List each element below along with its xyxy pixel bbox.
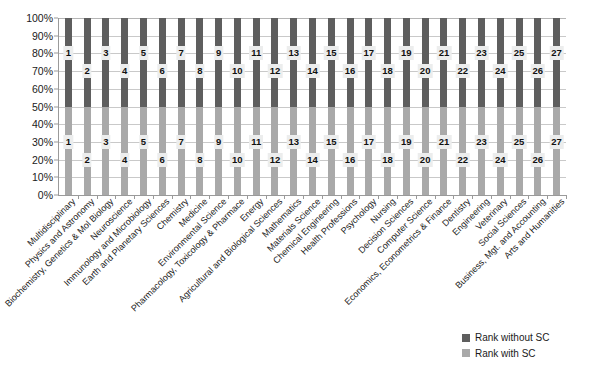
y-axis-tick-label: 30% [32, 137, 53, 148]
bar-segment-rank-with-sc [253, 107, 260, 196]
bar-segment-rank-without-sc [459, 18, 466, 107]
data-label-rank-without-sc: 5 [139, 46, 148, 60]
data-label-rank-without-sc: 25 [512, 46, 527, 60]
data-label-rank-with-sc: 16 [343, 153, 358, 167]
data-label-rank-without-sc: 24 [493, 64, 508, 78]
bar-segment-rank-without-sc [196, 18, 203, 107]
bar-segment-rank-with-sc [384, 107, 391, 196]
data-label-rank-without-sc: 20 [418, 64, 433, 78]
data-label-rank-with-sc: 23 [474, 135, 489, 149]
data-label-rank-with-sc: 2 [83, 153, 92, 167]
data-label-rank-without-sc: 11 [249, 46, 263, 60]
bar-segment-rank-without-sc [159, 18, 166, 107]
data-label-rank-with-sc: 4 [120, 153, 129, 167]
bar-segment-rank-with-sc [534, 107, 541, 196]
bar-column [121, 18, 128, 195]
data-label-rank-with-sc: 19 [399, 135, 414, 149]
data-label-rank-without-sc: 23 [474, 46, 489, 60]
bar-column [347, 18, 354, 195]
y-axis-tick-label: 100% [26, 13, 53, 24]
bar-series-group [59, 18, 566, 195]
bar-column [384, 18, 391, 195]
bar-segment-rank-without-sc [271, 18, 278, 107]
bar-segment-rank-without-sc [121, 18, 128, 107]
bar-column [309, 18, 316, 195]
y-axis-tick-mark [54, 53, 58, 54]
bar-column [215, 18, 222, 195]
data-label-rank-with-sc: 15 [324, 135, 339, 149]
data-label-rank-with-sc: 27 [549, 135, 564, 149]
bar-column [440, 18, 447, 195]
y-axis-tick-mark [54, 71, 58, 72]
y-axis-tick-mark [54, 18, 58, 19]
data-label-rank-with-sc: 22 [455, 153, 470, 167]
bar-segment-rank-without-sc [309, 18, 316, 107]
bar-column [365, 18, 372, 195]
bar-column [459, 18, 466, 195]
data-label-rank-with-sc: 20 [418, 153, 433, 167]
legend-item-rank-with-sc: Rank with SC [462, 347, 549, 361]
y-axis-tick-mark [54, 177, 58, 178]
legend-swatch-icon [462, 349, 470, 357]
y-axis-tick-mark [54, 159, 58, 160]
data-label-rank-with-sc: 25 [512, 135, 527, 149]
data-label-rank-with-sc: 10 [230, 153, 245, 167]
bar-segment-rank-with-sc [196, 107, 203, 196]
data-label-rank-with-sc: 6 [158, 153, 167, 167]
data-label-rank-without-sc: 22 [455, 64, 470, 78]
bar-column [478, 18, 485, 195]
data-label-rank-without-sc: 13 [286, 46, 301, 60]
bar-segment-rank-with-sc [422, 107, 429, 196]
bar-segment-rank-without-sc [384, 18, 391, 107]
bar-column [159, 18, 166, 195]
y-axis-tick-label: 20% [32, 154, 53, 165]
bar-segment-rank-with-sc [271, 107, 278, 196]
bar-segment-rank-without-sc [422, 18, 429, 107]
plot-area: 1122334455667788991010111112121313141415… [58, 18, 566, 196]
legend-swatch-icon [462, 334, 470, 342]
data-label-rank-with-sc: 5 [139, 135, 148, 149]
bar-segment-rank-without-sc [478, 18, 485, 107]
bar-segment-rank-without-sc [253, 18, 260, 107]
data-label-rank-without-sc: 3 [101, 46, 110, 60]
bar-column [196, 18, 203, 195]
bar-column [140, 18, 147, 195]
y-axis-tick-mark [54, 124, 58, 125]
data-label-rank-without-sc: 21 [437, 46, 452, 60]
bar-column [102, 18, 109, 195]
legend-item-rank-without-sc: Rank without SC [462, 331, 549, 345]
bar-segment-rank-with-sc [328, 107, 335, 196]
y-axis-tick-label: 50% [32, 101, 53, 112]
data-label-rank-without-sc: 18 [380, 64, 395, 78]
bar-segment-rank-without-sc [516, 18, 523, 107]
bar-segment-rank-with-sc [347, 107, 354, 196]
bar-column [253, 18, 260, 195]
bar-column [534, 18, 541, 195]
y-axis-tick-mark [54, 88, 58, 89]
data-label-rank-with-sc: 14 [305, 153, 320, 167]
bar-column [234, 18, 241, 195]
data-label-rank-with-sc: 13 [286, 135, 301, 149]
data-label-rank-without-sc: 8 [195, 64, 204, 78]
x-axis-tick-mark [566, 195, 567, 199]
data-label-rank-without-sc: 2 [83, 64, 92, 78]
bar-column [516, 18, 523, 195]
data-label-rank-without-sc: 12 [268, 64, 283, 78]
bar-segment-rank-with-sc [65, 107, 72, 196]
data-label-rank-without-sc: 17 [362, 46, 377, 60]
data-label-rank-without-sc: 26 [531, 64, 546, 78]
y-axis-tick-label: 0% [38, 190, 53, 201]
data-label-rank-without-sc: 19 [399, 46, 414, 60]
bar-segment-rank-with-sc [403, 107, 410, 196]
bar-segment-rank-without-sc [84, 18, 91, 107]
bar-segment-rank-without-sc [234, 18, 241, 107]
y-axis-tick-mark [54, 141, 58, 142]
bar-segment-rank-without-sc [553, 18, 560, 107]
bar-segment-rank-without-sc [403, 18, 410, 107]
stacked-bar-chart: 1122334455667788991010111112121313141415… [0, 0, 594, 375]
bar-segment-rank-without-sc [328, 18, 335, 107]
data-label-rank-with-sc: 21 [437, 135, 452, 149]
data-label-rank-with-sc: 18 [380, 153, 395, 167]
bar-column [553, 18, 560, 195]
y-axis-tick-label: 60% [32, 84, 53, 95]
